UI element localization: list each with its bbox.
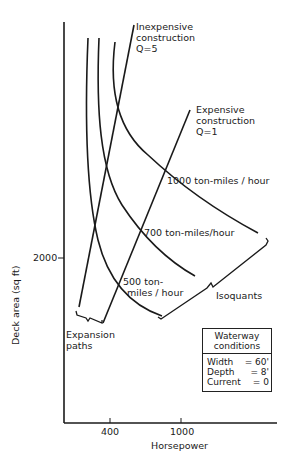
waterway-conditions-title: Waterway conditions — [203, 329, 271, 354]
label-inexpensive: Inexpensive construction Q=5 — [136, 21, 195, 54]
label-isoquant-700: 700 ton-miles/hour — [144, 227, 234, 238]
x-axis-label: Horsepower — [151, 440, 208, 451]
condition-current: Current= 0 — [203, 377, 271, 387]
x-tick-label-1000: 1000 — [170, 426, 194, 437]
label-isoquant-500: 500 ton- miles / hour — [123, 276, 183, 298]
isoquant-1000 — [113, 42, 258, 233]
condition-width: Width= 60' — [203, 357, 271, 367]
waterway-conditions-box: Waterway conditions Width= 60' Depth= 8'… — [202, 328, 272, 392]
label-expensive: Expensive construction Q=1 — [196, 104, 255, 137]
y-axis-label: Deck area (sq ft) — [10, 266, 21, 345]
expansion-paths-brace — [76, 311, 102, 323]
condition-depth: Depth= 8' — [203, 367, 271, 377]
label-isoquant-1000: 1000 ton-miles / hour — [167, 175, 270, 186]
label-isoquants: Isoquants — [216, 290, 262, 301]
y-tick-label-2000: 2000 — [33, 252, 57, 263]
label-expansion-paths: Expansion paths — [66, 329, 115, 351]
x-tick-label-400: 400 — [101, 426, 119, 437]
